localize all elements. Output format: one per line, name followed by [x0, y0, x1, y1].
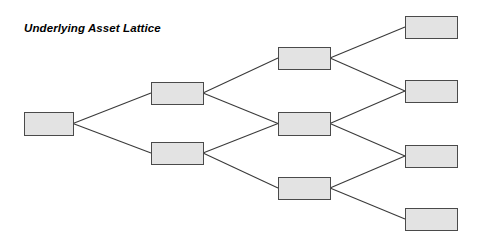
- page-title: Underlying Asset Lattice: [24, 21, 161, 35]
- lattice-node-box[interactable]: [152, 143, 204, 165]
- lattice-edge: [203, 153, 278, 188]
- lattice-edge: [203, 124, 278, 154]
- lattice-node-box[interactable]: [152, 83, 204, 105]
- lattice-node-box[interactable]: [279, 48, 331, 70]
- lattice-edge: [330, 188, 405, 219]
- lattice-edge: [330, 156, 405, 188]
- lattice-edges-group: [73, 27, 405, 219]
- lattice-node[interactable]: [152, 83, 204, 105]
- lattice-node[interactable]: [279, 48, 331, 70]
- lattice-edge: [73, 93, 151, 124]
- lattice-node-box[interactable]: [279, 113, 331, 136]
- lattice-canvas: [0, 0, 477, 241]
- lattice-nodes-group: [25, 17, 458, 231]
- lattice-edge: [330, 124, 405, 157]
- lattice-node[interactable]: [406, 209, 458, 231]
- lattice-node-box[interactable]: [406, 146, 458, 168]
- lattice-node-box[interactable]: [406, 209, 458, 231]
- lattice-edge: [73, 124, 151, 154]
- lattice-node-box[interactable]: [279, 178, 331, 200]
- lattice-node[interactable]: [406, 81, 458, 103]
- lattice-edge: [330, 58, 405, 91]
- lattice-node[interactable]: [279, 113, 331, 136]
- lattice-node[interactable]: [406, 17, 458, 39]
- lattice-node[interactable]: [406, 146, 458, 168]
- lattice-edge: [330, 91, 405, 124]
- lattice-node[interactable]: [279, 178, 331, 200]
- lattice-node[interactable]: [152, 143, 204, 165]
- lattice-edge: [330, 27, 405, 58]
- lattice-node[interactable]: [25, 113, 74, 136]
- lattice-edge: [203, 93, 278, 124]
- underlying-asset-lattice-figure: Underlying Asset Lattice: [0, 0, 477, 241]
- lattice-node-box[interactable]: [25, 113, 74, 136]
- lattice-edge: [203, 58, 278, 93]
- lattice-node-box[interactable]: [406, 17, 458, 39]
- lattice-node-box[interactable]: [406, 81, 458, 103]
